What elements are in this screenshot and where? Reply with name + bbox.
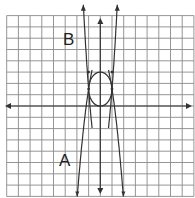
curve-arrow-icon <box>81 5 86 11</box>
y-axis-down-arrow-icon <box>97 188 103 194</box>
label-a: A <box>59 152 70 169</box>
curve-arrow-icon <box>115 5 120 11</box>
x-axis-right-arrow-icon <box>186 103 192 109</box>
label-b: B <box>63 31 74 48</box>
intersection-point <box>87 71 90 74</box>
curve-arrow-icon <box>121 191 125 196</box>
x-axis-left-arrow-icon <box>5 103 11 109</box>
curve-arrow-icon <box>75 191 79 196</box>
intersection-point <box>111 88 114 91</box>
y-axis-up-arrow-icon <box>97 18 103 24</box>
parabola-b-left-branch <box>83 5 92 128</box>
parabola-b-right-branch <box>109 5 118 128</box>
intersection-point <box>87 88 90 91</box>
coordinate-graph <box>0 0 195 198</box>
intersection-point <box>111 71 114 74</box>
